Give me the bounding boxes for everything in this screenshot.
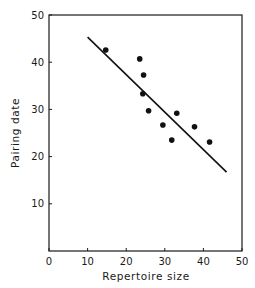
- y-tick-label: 30: [31, 104, 44, 115]
- y-tick-label: 10: [31, 198, 44, 209]
- fit-line: [88, 37, 227, 172]
- data-points: [103, 47, 212, 145]
- scatter-chart: 010203040501020304050 Repertoire size Pa…: [0, 0, 255, 288]
- regression-line: [88, 37, 227, 172]
- x-tick-label: 20: [120, 256, 133, 267]
- data-point: [103, 47, 109, 53]
- data-point: [137, 56, 143, 62]
- x-tick-label: 50: [236, 256, 249, 267]
- x-tick-label: 10: [81, 256, 94, 267]
- y-tick-label: 50: [31, 10, 44, 21]
- y-tick-label: 20: [31, 151, 44, 162]
- data-point: [207, 139, 213, 145]
- data-point: [174, 110, 180, 116]
- x-tick-label: 30: [158, 256, 171, 267]
- data-point: [169, 137, 175, 143]
- data-point: [140, 91, 146, 97]
- axis-ticks: 010203040501020304050: [31, 10, 248, 268]
- y-axis-title: Pairing date: [9, 98, 21, 168]
- data-point: [141, 72, 147, 78]
- y-tick-label: 40: [31, 57, 44, 68]
- x-tick-label: 0: [46, 256, 52, 267]
- data-point: [160, 122, 166, 128]
- x-tick-label: 40: [197, 256, 210, 267]
- x-axis-title: Repertoire size: [102, 270, 189, 282]
- plot-frame: [49, 15, 242, 251]
- plot-border: [49, 15, 242, 251]
- data-point: [146, 108, 152, 114]
- data-point: [192, 124, 198, 130]
